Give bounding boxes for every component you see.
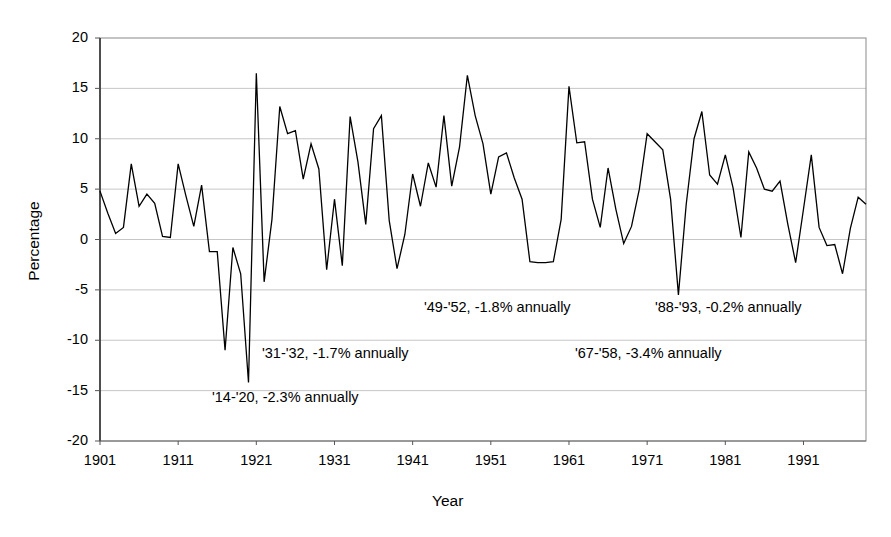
x-tick-label: 1991: [773, 452, 833, 468]
x-axis-title: Year: [432, 492, 463, 510]
y-axis-title: Percentage: [25, 181, 43, 301]
chart-annotation: '88-'93, -0.2% annually: [655, 299, 802, 315]
x-tick-marks: [100, 441, 803, 445]
y-tick-label: -10: [42, 331, 88, 347]
x-tick-label: 1951: [461, 452, 521, 468]
y-tick-label: -5: [42, 281, 88, 297]
x-tick-label: 1901: [70, 452, 130, 468]
y-tick-label: -20: [42, 432, 88, 448]
x-tick-label: 1961: [539, 452, 599, 468]
y-tick-marks: [95, 38, 100, 441]
y-tick-label: -15: [42, 382, 88, 398]
chart-annotation: '67-'58, -3.4% annually: [575, 345, 722, 361]
line-chart-plot: [0, 0, 891, 537]
x-tick-label: 1921: [226, 452, 286, 468]
chart-container: Percentage Year 20151050-5-10-15-20 1901…: [0, 0, 891, 537]
y-tick-label: 10: [42, 130, 88, 146]
y-tick-label: 0: [42, 231, 88, 247]
gridlines-group: [100, 88, 866, 390]
chart-annotation: '14-'20, -2.3% annually: [212, 389, 359, 405]
y-tick-label: 15: [42, 79, 88, 95]
x-tick-label: 1981: [695, 452, 755, 468]
y-tick-label: 5: [42, 180, 88, 196]
data-series-line: [100, 73, 866, 382]
chart-annotation: '49-'52, -1.8% annually: [424, 299, 571, 315]
x-tick-label: 1941: [383, 452, 443, 468]
x-tick-label: 1911: [148, 452, 208, 468]
x-tick-label: 1971: [617, 452, 677, 468]
x-tick-label: 1931: [304, 452, 364, 468]
chart-annotation: '31-'32, -1.7% annually: [262, 345, 409, 361]
y-tick-label: 20: [42, 29, 88, 45]
